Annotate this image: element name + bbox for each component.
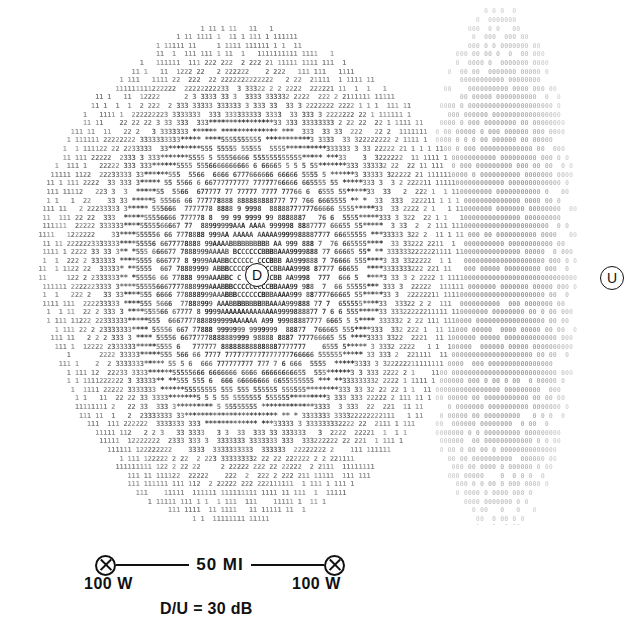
undesired-station-marker: U: [600, 266, 624, 290]
desired-station-label: D: [252, 268, 262, 282]
power-label-left: 100 W: [84, 575, 133, 593]
transmitter-left-icon: [95, 555, 116, 576]
du-ratio-label: D/U = 30 dB: [160, 600, 253, 618]
transmitter-right-icon: [324, 555, 345, 576]
desired-station-marker: D: [245, 263, 269, 287]
undesired-station-label: U: [607, 271, 617, 285]
separation-distance-label: 50 MI: [189, 555, 251, 575]
legend-line-left: [116, 564, 189, 567]
legend-line-right: [251, 564, 324, 567]
power-label-right: 100 W: [292, 575, 341, 593]
figure-legend: 50 MI 100 W 100 W D/U = 30 dB: [0, 528, 640, 621]
ascii-contour-plot: [0, 0, 640, 525]
separation-indicator: 50 MI: [95, 554, 345, 576]
